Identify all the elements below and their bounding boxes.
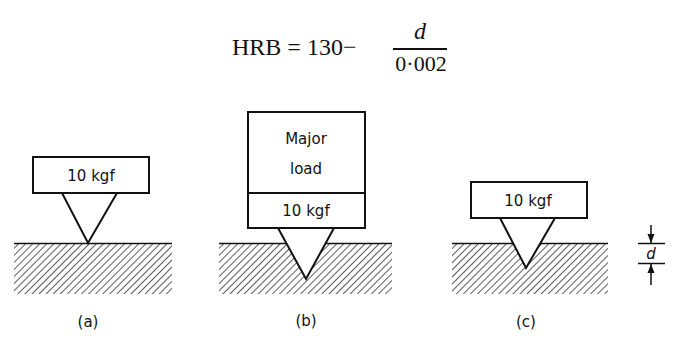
depth-label: d [646,245,656,263]
panel-c: 10 kgf (c) [452,182,608,331]
major-load-label-line1: Major [285,130,327,148]
minor-load-label: 10 kgf [504,192,552,210]
rockwell-hardness-diagram: HRB = 130− d 0·002 10 kgf (a) Major [0,0,681,344]
minor-load-label: 10 kgf [67,167,115,185]
depth-dimension: d [638,225,665,285]
panel-b: Major load 10 kgf (b) [219,112,392,330]
arrow-down-icon [648,234,655,243]
diagram-svg: 10 kgf (a) Major load 10 kgf (b) 10 kgf … [0,0,681,344]
panel-a: 10 kgf (a) [14,157,172,331]
caption-a: (a) [78,313,99,331]
major-load-label-line2: load [290,160,322,178]
caption-c: (c) [516,313,536,331]
specimen-hatch [14,244,172,294]
arrow-up-icon [648,264,655,273]
minor-load-label: 10 kgf [282,202,330,220]
indenter [62,193,117,243]
caption-b: (b) [295,312,316,330]
